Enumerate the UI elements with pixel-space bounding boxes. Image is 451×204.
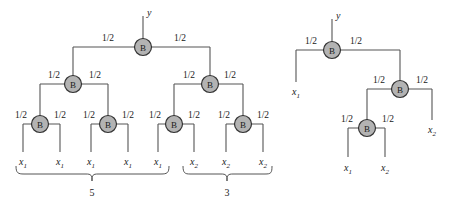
leaf-label: x1 (86, 156, 95, 170)
output-label-y: y (335, 10, 341, 21)
weight-label: 1/2 (373, 75, 385, 85)
group-count-label: 5 (90, 187, 95, 198)
leaf-label: x2 (380, 162, 389, 176)
output-label-y: y (146, 7, 152, 18)
node-letter: B (37, 120, 43, 130)
weight-label: 1/2 (218, 110, 230, 120)
weight-label: 1/2 (122, 110, 134, 120)
node-letter: B (105, 120, 111, 130)
boolean-circuit-figure: y B B (0, 0, 451, 204)
node-m0: B (324, 42, 341, 59)
node-letter: B (140, 43, 146, 53)
node-m2: B (359, 120, 376, 137)
leaf-label: x1 (153, 156, 162, 170)
node-letter: B (364, 124, 370, 134)
leaf-label: x2 (427, 124, 436, 138)
weight-label: 1/2 (174, 33, 186, 43)
weight-label: 1/2 (83, 110, 95, 120)
weight-label: 1/2 (416, 75, 428, 85)
weight-label: 1/2 (257, 110, 269, 120)
leaf-label: x1 (343, 162, 352, 176)
node-letter: B (397, 85, 403, 95)
weight-label: 1/2 (382, 114, 394, 124)
leaf-label: x1 (291, 86, 300, 100)
node-m1: B (392, 81, 409, 98)
weight-label: 1/2 (54, 110, 66, 120)
node-n5: B (166, 116, 183, 133)
weight-label: 1/2 (305, 36, 317, 46)
weight-label: 1/2 (149, 110, 161, 120)
leaf-label: x1 (18, 156, 27, 170)
weight-label: 1/2 (188, 110, 200, 120)
leaf-label: x1 (55, 156, 64, 170)
weight-label: 1/2 (48, 70, 60, 80)
node-letter: B (329, 46, 335, 56)
leaf-label: x2 (189, 156, 198, 170)
weight-label: 1/2 (183, 70, 195, 80)
node-n1: B (65, 76, 82, 93)
diagram-balanced-tree: y B B (15, 7, 272, 198)
weight-label: 1/2 (89, 70, 101, 80)
weight-label: 1/2 (102, 33, 114, 43)
node-letter: B (171, 120, 177, 130)
weight-label: 1/2 (224, 70, 236, 80)
leaf-label: x2 (221, 156, 230, 170)
node-n0: B (135, 39, 152, 56)
leaf-label: x2 (258, 156, 267, 170)
diagram-chain-tree: y B B B 1/2 1/2 1/2 1/2 1/2 1/2 (291, 10, 436, 176)
node-n6: B (235, 116, 252, 133)
weight-label: 1/2 (341, 114, 353, 124)
node-n4: B (100, 116, 117, 133)
weight-label: 1/2 (350, 36, 362, 46)
group-count-label: 3 (225, 187, 230, 198)
weight-label: 1/2 (15, 110, 27, 120)
node-letter: B (207, 80, 213, 90)
leaf-label: x1 (123, 156, 132, 170)
node-n2: B (202, 76, 219, 93)
node-letter: B (70, 80, 76, 90)
node-n3: B (32, 116, 49, 133)
node-letter: B (240, 120, 246, 130)
